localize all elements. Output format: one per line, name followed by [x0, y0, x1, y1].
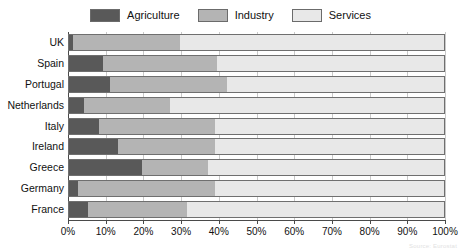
- y-axis-label-spain: Spain: [0, 55, 64, 72]
- bar-segment-services[interactable]: [215, 119, 444, 134]
- gridline-100: [445, 32, 446, 220]
- legend-swatch-services: [292, 9, 322, 22]
- bar-row[interactable]: [68, 55, 445, 72]
- legend-item-services: Services: [292, 9, 371, 22]
- bar-segment-services[interactable]: [208, 160, 444, 175]
- x-axis-label-50: 50%: [246, 226, 266, 237]
- bar-segment-industry[interactable]: [73, 35, 180, 50]
- bar-segment-agriculture[interactable]: [69, 56, 103, 71]
- y-axis-label-uk: UK: [0, 34, 64, 51]
- x-axis-label-0: 0%: [61, 226, 75, 237]
- legend-label-services: Services: [329, 9, 371, 22]
- bar-segment-agriculture[interactable]: [69, 119, 99, 134]
- x-axis-label-80: 80%: [360, 226, 380, 237]
- bar-segment-services[interactable]: [215, 181, 444, 196]
- y-axis-label-netherlands: Netherlands: [0, 97, 64, 114]
- bar-segment-industry[interactable]: [88, 202, 187, 217]
- bar-segment-services[interactable]: [217, 56, 444, 71]
- bar-segment-industry[interactable]: [118, 139, 216, 154]
- bar-segment-services[interactable]: [187, 202, 444, 217]
- bar-segment-agriculture[interactable]: [69, 77, 110, 92]
- bar-segment-services[interactable]: [170, 98, 444, 113]
- x-axis-label-40: 40%: [209, 226, 229, 237]
- bar-segment-services[interactable]: [180, 35, 444, 50]
- bar-segment-industry[interactable]: [78, 181, 215, 196]
- chart-legend: Agriculture Industry Services: [0, 6, 461, 24]
- bar-segment-services[interactable]: [215, 139, 444, 154]
- x-axis-label-100: 100%: [432, 226, 458, 237]
- bar-segment-agriculture[interactable]: [69, 160, 142, 175]
- x-axis-tick-80: [370, 220, 371, 224]
- bar-segment-industry[interactable]: [110, 77, 226, 92]
- plot-area: [68, 32, 445, 220]
- x-axis-label-60: 60%: [284, 226, 304, 237]
- x-axis-tick-60: [294, 220, 295, 224]
- legend-item-industry: Industry: [198, 9, 274, 22]
- y-axis-label-germany: Germany: [0, 180, 64, 197]
- x-axis-tick-100: [445, 220, 446, 224]
- x-axis-tick-70: [332, 220, 333, 224]
- x-axis-tick-50: [257, 220, 258, 224]
- x-axis-tick-0: [68, 220, 69, 224]
- bar-rows: [68, 32, 445, 220]
- legend-swatch-agriculture: [90, 9, 120, 22]
- y-axis-label-italy: Italy: [0, 118, 64, 135]
- x-axis-label-20: 20%: [133, 226, 153, 237]
- x-axis-label-30: 30%: [171, 226, 191, 237]
- x-axis-tick-10: [106, 220, 107, 224]
- x-axis-tick-30: [181, 220, 182, 224]
- x-axis-tick-20: [143, 220, 144, 224]
- bar-row[interactable]: [68, 159, 445, 176]
- bar-row[interactable]: [68, 118, 445, 135]
- bar-segment-agriculture[interactable]: [69, 139, 118, 154]
- bar-segment-industry[interactable]: [103, 56, 217, 71]
- x-axis-tick-90: [407, 220, 408, 224]
- bar-segment-services[interactable]: [227, 77, 445, 92]
- bar-segment-agriculture[interactable]: [69, 181, 78, 196]
- y-axis-label-france: France: [0, 201, 64, 218]
- y-axis-label-ireland: Ireland: [0, 138, 64, 155]
- bar-segment-agriculture[interactable]: [69, 98, 84, 113]
- bar-row[interactable]: [68, 138, 445, 155]
- bar-row[interactable]: [68, 34, 445, 51]
- legend-swatch-industry: [198, 9, 228, 22]
- x-axis-label-90: 90%: [397, 226, 417, 237]
- bar-segment-industry[interactable]: [99, 119, 215, 134]
- bar-segment-industry[interactable]: [142, 160, 208, 175]
- legend-label-industry: Industry: [235, 9, 274, 22]
- legend-label-agriculture: Agriculture: [127, 9, 180, 22]
- bar-segment-industry[interactable]: [84, 98, 170, 113]
- bar-row[interactable]: [68, 180, 445, 197]
- source-caption: Source: Eurostat: [409, 243, 457, 249]
- bar-segment-agriculture[interactable]: [69, 202, 88, 217]
- y-axis-label-greece: Greece: [0, 159, 64, 176]
- x-axis-label-10: 10%: [96, 226, 116, 237]
- bar-row[interactable]: [68, 201, 445, 218]
- bar-row[interactable]: [68, 76, 445, 93]
- bar-row[interactable]: [68, 97, 445, 114]
- legend-item-agriculture: Agriculture: [90, 9, 180, 22]
- y-axis-labels: UKSpainPortugalNetherlandsItalyIrelandGr…: [0, 32, 64, 220]
- x-axis-label-70: 70%: [322, 226, 342, 237]
- x-axis-tick-40: [219, 220, 220, 224]
- y-axis-label-portugal: Portugal: [0, 76, 64, 93]
